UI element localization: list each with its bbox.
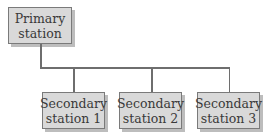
secondary-3-line2: station 3	[195, 111, 262, 126]
primary-label-line1: Primary	[15, 11, 66, 26]
secondary-1-line2: station 1	[40, 111, 107, 126]
secondary-2-line2: station 2	[117, 111, 184, 126]
secondary-station-3-label: Secondary station 3	[195, 96, 262, 126]
secondary-2-line1: Secondary	[117, 96, 184, 111]
secondary-1-line1: Secondary	[40, 96, 107, 111]
secondary-3-line1: Secondary	[195, 96, 262, 111]
connector-drop-2	[151, 67, 153, 93]
primary-label-line2: station	[15, 26, 66, 41]
secondary-station-1-label: Secondary station 1	[40, 96, 107, 126]
secondary-station-2-box: Secondary station 2	[119, 92, 182, 129]
connector-bus	[40, 67, 230, 69]
connector-drop-1	[73, 67, 75, 93]
primary-station-box: Primary station	[8, 7, 72, 44]
secondary-station-3-box: Secondary station 3	[197, 92, 260, 129]
connector-drop-3	[229, 67, 231, 93]
primary-station-label: Primary station	[15, 11, 66, 41]
secondary-station-2-label: Secondary station 2	[117, 96, 184, 126]
connector-trunk	[40, 44, 42, 69]
secondary-station-1-box: Secondary station 1	[42, 92, 105, 129]
